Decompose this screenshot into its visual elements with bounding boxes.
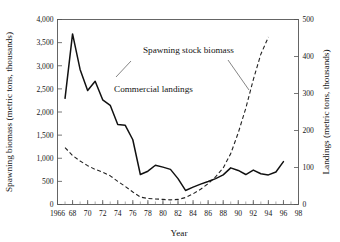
x-axis-tick-labels: 196668707274767880828486889092949698 [50, 209, 303, 218]
y-right-tick-label: 200 [303, 126, 315, 135]
y-left-tick-label: 1,000 [36, 154, 53, 163]
x-tick-label: 76 [129, 209, 137, 218]
y-left-tick-label: 3,500 [36, 38, 53, 47]
y-left-tick-label: 0 [50, 200, 54, 209]
x-axis-title: Year [171, 228, 188, 238]
x-tick-label: 88 [219, 209, 227, 218]
y-left-tick-label: 4,000 [36, 15, 53, 24]
x-tick-label: 1966 [50, 209, 65, 218]
y-left-axis-tick-labels: 05001,0001,5002,0002,5003,0003,5004,000 [36, 15, 53, 209]
x-tick-label: 80 [159, 209, 167, 218]
x-axis-major-ticks [58, 200, 299, 205]
y-left-axis-title: Spawning biomass (metric tons, thousands… [4, 32, 14, 192]
x-tick-label: 84 [189, 209, 197, 218]
x-tick-label: 72 [99, 209, 107, 218]
y-right-tick-label: 100 [303, 163, 315, 172]
y-right-axis-ticks [294, 20, 299, 205]
x-tick-label: 74 [114, 209, 122, 218]
leader-line-commercial-landings [116, 61, 131, 77]
y-left-tick-label: 2,000 [36, 108, 53, 117]
annotation-commercial-landings: Commercial landings [114, 84, 193, 94]
dual-axis-line-chart: 196668707274767880828486889092949698 050… [0, 0, 340, 242]
y-right-tick-label: 300 [303, 89, 315, 98]
x-tick-label: 86 [204, 209, 212, 218]
series-spawning-stock-biomass [65, 37, 268, 200]
y-left-tick-label: 500 [42, 177, 54, 186]
x-tick-label: 94 [265, 209, 273, 218]
y-right-tick-label: 0 [303, 200, 307, 209]
y-right-axis-title: Landings (metric tons, thousands) [321, 49, 331, 174]
y-right-axis-tick-labels: 0100200300400500 [303, 15, 315, 209]
x-tick-label: 78 [144, 209, 152, 218]
x-tick-label: 92 [250, 209, 258, 218]
x-tick-label: 98 [295, 209, 303, 218]
x-tick-label: 96 [280, 209, 288, 218]
y-left-tick-label: 2,500 [36, 85, 53, 94]
y-left-tick-label: 1,500 [36, 131, 53, 140]
y-left-axis-ticks [58, 20, 63, 205]
series-commercial-landings [65, 34, 283, 191]
leader-line-spawning-stock-biomass [228, 60, 249, 90]
y-right-tick-label: 500 [303, 15, 315, 24]
x-tick-label: 90 [234, 209, 242, 218]
x-tick-label: 68 [69, 209, 77, 218]
annotation-spawning-stock-biomass: Spawning stock biomass [143, 45, 234, 55]
x-tick-label: 82 [174, 209, 182, 218]
chart-figure: 196668707274767880828486889092949698 050… [0, 0, 340, 242]
y-right-tick-label: 400 [303, 52, 315, 61]
x-tick-label: 70 [84, 209, 92, 218]
y-left-tick-label: 3,000 [36, 62, 53, 71]
